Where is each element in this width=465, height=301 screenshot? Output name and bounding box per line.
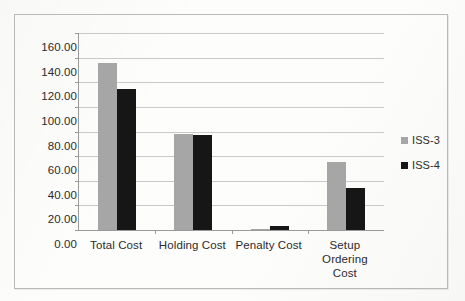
bar [270,226,289,230]
x-axis-category-label-line: Cost [307,266,383,280]
bar-group [308,33,384,230]
x-axis-category-label: Holding Cost [154,238,230,252]
x-axis-category-label-line: Total Cost [78,238,154,252]
chart-legend: ISS-3ISS-4 [401,134,449,184]
bar-group [232,33,308,230]
bar [327,162,346,230]
bar [251,229,270,230]
x-axis-category-label: Setup OrderingCost [307,238,383,280]
y-axis-tickmark [75,132,79,133]
plot-wrapper: 0.0020.0040.0060.0080.00100.00120.00140.… [15,15,447,288]
plot-area [78,33,384,231]
bar [98,63,117,230]
y-axis-tick-labels: 0.0020.0040.0060.0080.00100.00120.00140.… [21,40,77,240]
bar [117,89,136,230]
y-axis-tick-label: 60.00 [48,164,77,176]
y-axis-tick-label: 40.00 [48,189,77,201]
y-axis-tickmark [75,205,79,206]
y-axis-tickmark [75,181,79,182]
x-axis-category-label: Total Cost [78,238,154,252]
x-axis-category-label: Penalty Cost [231,238,307,252]
bar-group [79,33,155,230]
legend-swatch-icon [401,162,408,169]
x-axis-category-label-line: Penalty Cost [231,238,307,252]
y-axis-tick-label: 140.00 [41,66,77,78]
chart-figure-frame: 0.0020.0040.0060.0080.00100.00120.00140.… [14,14,448,289]
legend-label: ISS-3 [412,134,440,146]
legend-swatch-icon [401,137,408,144]
y-axis-tick-label: 0.00 [54,238,77,250]
y-axis-tickmark [75,58,79,59]
bar [193,135,212,230]
y-axis-tick-label: 100.00 [41,115,77,127]
y-axis-tickmark [75,82,79,83]
y-axis-tick-label: 80.00 [48,140,77,152]
y-axis-tick-label: 20.00 [48,213,77,225]
legend-item: ISS-3 [401,134,449,146]
y-axis-tick-label: 120.00 [41,90,77,102]
x-axis-category-label-line: Holding Cost [154,238,230,252]
bar [346,188,365,230]
bars-layer [79,33,384,230]
y-axis-tickmark [75,107,79,108]
bar-group [155,33,231,230]
legend-label: ISS-4 [412,159,440,171]
x-axis-category-labels: Total CostHolding CostPenalty CostSetup … [78,234,383,282]
y-axis-tickmark [75,230,79,231]
y-axis-tickmark [75,156,79,157]
bar [174,134,193,230]
y-axis-tick-label: 160.00 [41,41,77,53]
x-axis-category-label-line: Setup Ordering [307,238,383,266]
y-axis-tickmark [75,33,79,34]
legend-item: ISS-4 [401,159,449,171]
